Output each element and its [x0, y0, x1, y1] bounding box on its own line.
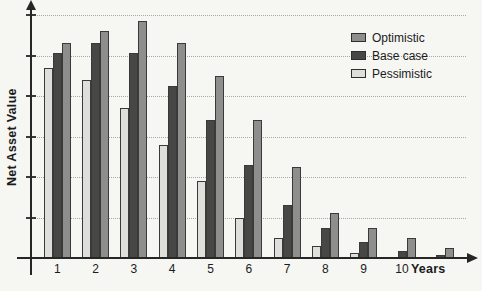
bar-optimistic-group-3	[138, 21, 147, 258]
legend-label: Pessimistic	[372, 67, 432, 81]
bar-base-case-group-7	[283, 205, 292, 258]
gridline	[34, 15, 466, 16]
bar-optimistic-group-5	[215, 76, 224, 258]
bar-optimistic-group-7	[292, 167, 301, 258]
bar-base-case-group-4	[168, 86, 177, 258]
bar-pessimistic-group-4	[159, 145, 168, 258]
x-tick-label-8: 8	[312, 262, 338, 276]
x-tick-label-5: 5	[198, 262, 224, 276]
bar-base-case-group-8	[321, 228, 330, 258]
x-axis-arrow-icon	[467, 253, 478, 263]
legend-swatch-icon	[351, 69, 366, 78]
x-tick-label-4: 4	[159, 262, 185, 276]
bar-pessimistic-group-7	[274, 238, 283, 258]
bar-optimistic-group-8	[330, 213, 339, 258]
legend-swatch-icon	[351, 51, 366, 60]
net-asset-value-bar-chart: Net Asset Value 12345678910 Years Optimi…	[0, 0, 482, 291]
legend-swatch-icon	[351, 33, 366, 42]
bar-pessimistic-group-6	[235, 218, 244, 259]
bar-base-case-group-6	[244, 165, 253, 258]
y-axis-label: Net Asset Value	[4, 57, 21, 217]
bar-optimistic-group-4	[177, 43, 186, 258]
legend-item-optimistic: Optimistic	[351, 31, 432, 44]
bar-base-case-group-2	[91, 43, 100, 258]
bar-optimistic-group-2	[100, 31, 109, 258]
bar-optimistic-group-9	[368, 228, 377, 258]
x-tick-label-6: 6	[236, 262, 262, 276]
bar-base-case-group-3	[129, 53, 138, 258]
x-tick-label-2: 2	[83, 262, 109, 276]
x-tick-label-7: 7	[274, 262, 300, 276]
x-tick-label-3: 3	[121, 262, 147, 276]
bar-optimistic-group-10	[407, 238, 416, 258]
bar-base-case-group-5	[206, 120, 215, 258]
legend-item-pessimistic: Pessimistic	[351, 67, 432, 80]
bar-pessimistic-group-5	[197, 181, 206, 258]
x-axis-line	[17, 257, 469, 259]
bar-pessimistic-group-2	[82, 80, 91, 258]
legend-label: Optimistic	[372, 31, 425, 45]
y-axis-line	[30, 8, 32, 275]
bar-optimistic-group-1	[62, 43, 71, 258]
bar-optimistic-group-6	[253, 120, 262, 258]
legend: OptimisticBase casePessimistic	[351, 31, 432, 85]
bar-pessimistic-group-1	[44, 68, 53, 258]
bar-pessimistic-group-3	[120, 108, 129, 258]
x-tick-label-1: 1	[44, 262, 70, 276]
x-axis-label: Years	[411, 262, 465, 276]
legend-label: Base case	[372, 49, 428, 63]
y-axis-arrow-icon	[26, 0, 36, 10]
x-tick-label-9: 9	[351, 262, 377, 276]
legend-item-base-case: Base case	[351, 49, 432, 62]
bar-base-case-group-9	[359, 242, 368, 258]
bar-base-case-group-1	[53, 53, 62, 258]
